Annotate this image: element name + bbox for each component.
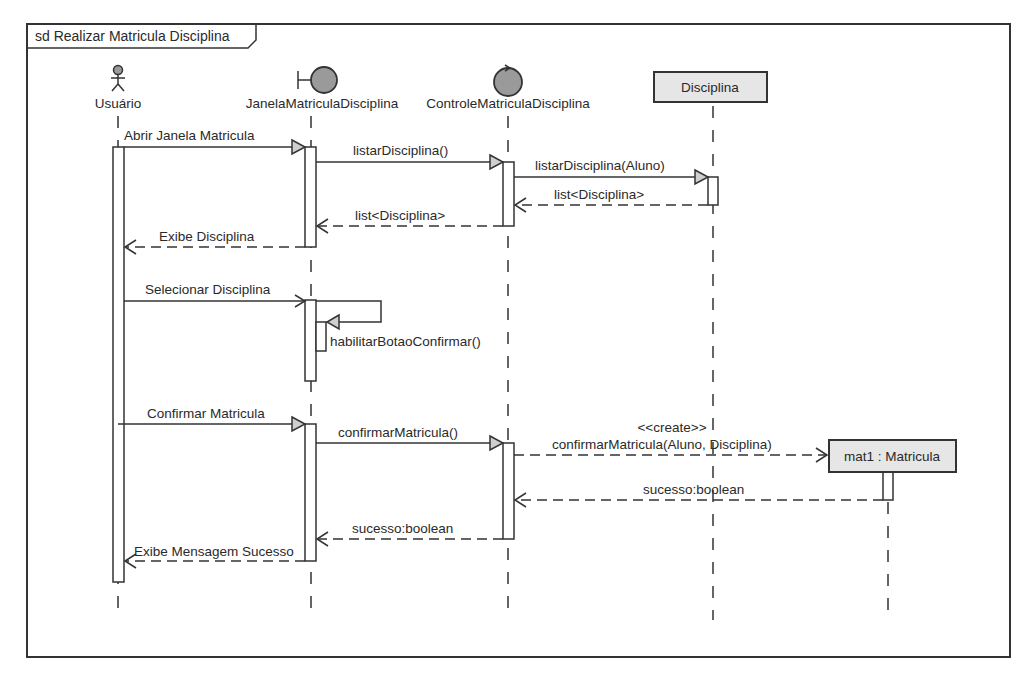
svg-text:Abrir Janela Matricula: Abrir Janela Matricula [124, 128, 255, 143]
frame-title: sd Realizar Matricula Disciplina [35, 28, 230, 44]
boundary-icon [298, 67, 337, 93]
svg-text:Exibe Mensagem Sucesso: Exibe Mensagem Sucesso [134, 544, 294, 559]
message-exibe-mensagem-sucesso: Exibe Mensagem Sucesso [125, 544, 305, 568]
activation-controle-1 [503, 162, 514, 226]
svg-text:list<Disciplina>: list<Disciplina> [355, 208, 445, 223]
message-listar-disciplina-aluno: listarDisciplina(Aluno) [514, 158, 708, 184]
svg-text:confirmarMatricula(Aluno, Disc: confirmarMatricula(Aluno, Disciplina) [552, 437, 772, 452]
lifeline-label-controle: ControleMatriculaDisciplina [426, 96, 590, 111]
message-confirmar-matricula: Confirmar Matricula [118, 406, 305, 431]
activation-janela-2 [305, 300, 316, 381]
message-habilitar-botao: habilitarBotaoConfirmar() [316, 301, 481, 349]
message-return-list-2: list<Disciplina> [317, 208, 503, 233]
message-return-sucesso-1: sucesso:boolean [515, 482, 883, 507]
svg-text:Exibe Disciplina: Exibe Disciplina [159, 229, 255, 244]
activation-disciplina [708, 177, 718, 205]
svg-text:list<Disciplina>: list<Disciplina> [554, 187, 644, 202]
message-return-sucesso-2: sucesso:boolean [317, 521, 503, 546]
message-selecionar-disciplina: Selecionar Disciplina [124, 282, 305, 307]
sequence-diagram: sd Realizar Matricula Disciplina Usuário… [0, 0, 1029, 677]
activation-janela-3 [305, 424, 316, 561]
message-create-matricula: <<create>> confirmarMatricula(Aluno, Dis… [514, 420, 827, 462]
message-return-list-1: list<Disciplina> [515, 187, 708, 212]
control-icon [494, 65, 522, 96]
activation-janela-1 [305, 147, 316, 247]
message-confirmar-matricula-call: confirmarMatricula() [316, 425, 503, 450]
svg-text:sucesso:boolean: sucesso:boolean [643, 482, 744, 497]
svg-text:listarDisciplina(): listarDisciplina() [353, 143, 448, 158]
message-listar-disciplina: listarDisciplina() [316, 143, 503, 169]
lifeline-label-mat1: mat1 : Matricula [844, 449, 941, 464]
svg-text:<<create>>: <<create>> [637, 420, 706, 435]
diagram-frame [27, 24, 1010, 657]
lifeline-label-usuario: Usuário [95, 96, 142, 111]
activation-janela-self [316, 322, 326, 351]
svg-text:Selecionar Disciplina: Selecionar Disciplina [145, 282, 271, 297]
activation-mat1 [883, 472, 893, 500]
lifeline-label-janela: JanelaMatriculaDisciplina [246, 96, 399, 111]
svg-text:listarDisciplina(Aluno): listarDisciplina(Aluno) [535, 158, 665, 173]
activation-controle-2 [503, 443, 514, 539]
actor-icon [111, 66, 125, 92]
svg-text:Confirmar Matricula: Confirmar Matricula [147, 406, 265, 421]
svg-text:confirmarMatricula(): confirmarMatricula() [338, 425, 458, 440]
svg-text:habilitarBotaoConfirmar(): habilitarBotaoConfirmar() [330, 334, 481, 349]
lifeline-label-disciplina: Disciplina [681, 80, 739, 95]
activation-usuario [113, 147, 124, 582]
message-abrir-janela: Abrir Janela Matricula [124, 128, 305, 154]
svg-text:sucesso:boolean: sucesso:boolean [352, 521, 453, 536]
message-exibe-disciplina: Exibe Disciplina [125, 229, 305, 254]
